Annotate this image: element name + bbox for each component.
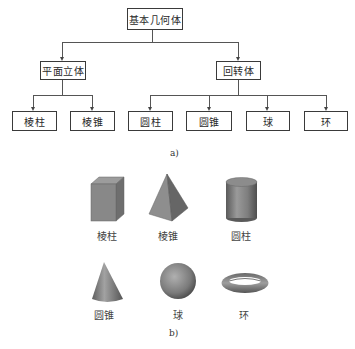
cylinder-icon	[226, 178, 257, 223]
shape-label-cylinder: 圆柱	[221, 228, 261, 243]
shape-label-prism: 棱柱	[87, 228, 127, 243]
torus-icon	[222, 273, 269, 293]
shapes-illustration	[0, 0, 355, 349]
sphere-icon	[160, 263, 196, 299]
prism-icon	[91, 177, 124, 221]
cone-icon	[92, 262, 123, 302]
shape-label-torus: 环	[224, 307, 264, 322]
pyramid-icon	[149, 174, 188, 221]
shape-label-pyramid: 棱锥	[148, 228, 188, 243]
shape-label-cone: 圆锥	[84, 307, 124, 322]
shape-label-sphere: 球	[158, 307, 198, 322]
caption-b: b)	[169, 328, 178, 338]
